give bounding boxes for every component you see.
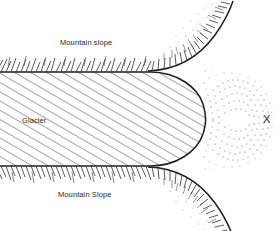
label-mountain-slope-upper: Mountain slope <box>60 38 112 47</box>
label-mountain-slope-lower: Mountain Slope <box>58 190 112 199</box>
ridge-lower-crest-line <box>148 167 233 231</box>
outwash-stipple-region <box>199 68 273 173</box>
mountain-slope-upper-margin <box>0 56 151 72</box>
label-glacier: Glacier <box>22 116 46 125</box>
glacier-diagram-figure: Mountain slope Glacier Mountain Slope X <box>0 0 280 231</box>
mountain-ridge-upper-right <box>148 1 233 71</box>
mountain-ridge-lower-right <box>148 167 233 231</box>
ridge-upper-crest-line <box>148 1 233 71</box>
label-x-marker: X <box>263 113 270 125</box>
mountain-slope-lower-margin <box>0 166 151 183</box>
ridge-lower-speckle <box>170 191 215 231</box>
ridge-upper-speckle <box>170 4 221 48</box>
